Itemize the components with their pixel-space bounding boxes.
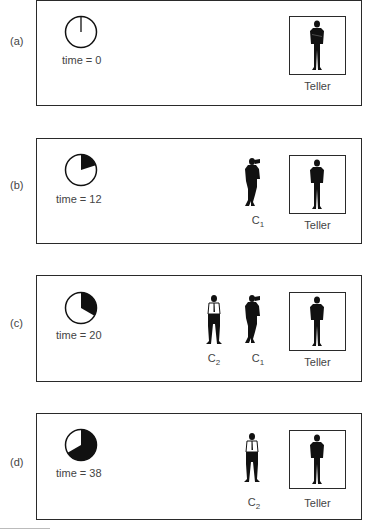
customer-label: C1: [248, 352, 268, 367]
clock-icon: [64, 15, 98, 49]
customer-label: C2: [204, 352, 224, 367]
panel-label: (a): [10, 35, 23, 47]
teller-figure-icon: [307, 434, 327, 486]
customer-c2-figure-icon: [205, 294, 223, 346]
teller-box: [289, 430, 346, 489]
customer-label: C1: [248, 214, 268, 229]
divider: [0, 528, 50, 529]
teller-box: [289, 155, 346, 214]
time-label: time = 12: [56, 193, 116, 205]
teller-label: Teller: [289, 356, 346, 368]
teller-box: [289, 292, 346, 351]
teller-box: [289, 16, 346, 75]
teller-label: Teller: [289, 219, 346, 231]
time-label: time = 38: [56, 467, 116, 479]
panel-label: (c): [10, 317, 23, 329]
clock-icon: [64, 291, 98, 325]
time-label: time = 20: [56, 329, 116, 341]
teller-label: Teller: [289, 497, 346, 509]
clock-icon: [64, 428, 98, 462]
customer-c2-figure-icon: [243, 432, 261, 484]
panel-label: (d): [10, 456, 23, 468]
teller-figure-icon: [307, 20, 327, 72]
teller-figure-icon: [307, 296, 327, 348]
customer-label: C2: [244, 496, 264, 511]
clock-icon: [64, 153, 98, 187]
customer-c1-figure-icon: [243, 294, 265, 346]
panel-label: (b): [10, 179, 23, 191]
customer-c1-figure-icon: [243, 157, 265, 209]
time-label: time = 0: [62, 54, 122, 66]
teller-figure-icon: [307, 159, 327, 211]
teller-label: Teller: [289, 80, 346, 92]
